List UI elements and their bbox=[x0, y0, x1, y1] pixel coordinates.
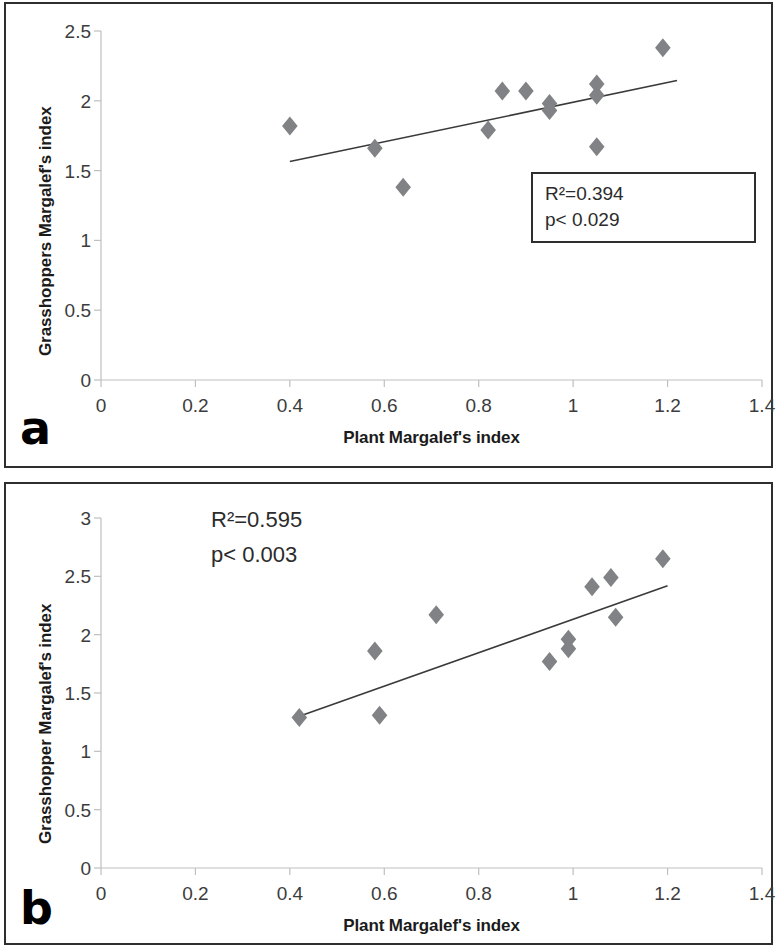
plot-area-a: 00.20.40.60.811.21.400.511.522.5Plant Ma… bbox=[6, 4, 771, 466]
data-point-b-8 bbox=[603, 568, 619, 587]
data-point-a-2 bbox=[395, 178, 411, 197]
data-point-b-7 bbox=[584, 577, 600, 596]
p-value-label-b: p< 0.003 bbox=[211, 537, 421, 572]
panel-b: 00.20.40.60.811.21.400.511.522.53Plant M… bbox=[4, 482, 773, 945]
r-squared-label-a: R²=0.394 bbox=[545, 181, 742, 207]
data-point-b-2 bbox=[372, 706, 388, 725]
r-squared-label-b: R²=0.595 bbox=[211, 502, 421, 537]
p-value-label-a: p< 0.029 bbox=[545, 207, 742, 233]
panel-letter-b: b bbox=[20, 885, 53, 931]
data-point-a-5 bbox=[518, 82, 534, 101]
y-axis-title-a: Grasshoppers Margalef's index bbox=[36, 106, 56, 356]
y-axis-title-b: Grasshopper Margalef's index bbox=[36, 604, 56, 844]
stats-annotation-a: R²=0.394p< 0.029 bbox=[531, 172, 756, 243]
data-point-a-11 bbox=[655, 38, 671, 57]
data-point-b-3 bbox=[428, 605, 444, 624]
data-point-a-1 bbox=[367, 139, 383, 158]
trendline-a bbox=[290, 81, 677, 162]
trendline-b bbox=[299, 586, 667, 717]
data-point-b-9 bbox=[608, 608, 624, 627]
data-point-b-0 bbox=[292, 708, 308, 727]
data-point-a-3 bbox=[480, 121, 496, 140]
x-axis-title-a: Plant Margalef's index bbox=[343, 428, 520, 448]
stats-annotation-b: R²=0.595p< 0.003 bbox=[211, 502, 421, 572]
plot-area-b: 00.20.40.60.811.21.400.511.522.53Plant M… bbox=[6, 484, 771, 943]
data-point-a-10 bbox=[589, 137, 605, 156]
data-point-b-4 bbox=[542, 652, 558, 671]
data-point-b-1 bbox=[367, 642, 383, 661]
data-point-b-10 bbox=[655, 549, 671, 568]
panel-a: 00.20.40.60.811.21.400.511.522.5Plant Ma… bbox=[4, 2, 773, 468]
figure-container: 00.20.40.60.811.21.400.511.522.5Plant Ma… bbox=[0, 0, 777, 947]
data-point-a-9 bbox=[589, 86, 605, 105]
data-point-a-0 bbox=[282, 116, 298, 135]
data-point-a-4 bbox=[495, 82, 511, 101]
panel-letter-a: a bbox=[20, 405, 51, 451]
x-axis-title-b: Plant Margalef's index bbox=[343, 916, 520, 936]
